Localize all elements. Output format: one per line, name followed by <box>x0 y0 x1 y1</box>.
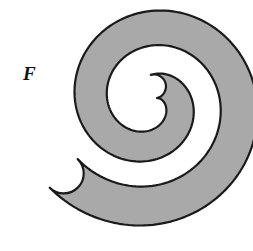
spiral-figure-svg <box>0 0 253 251</box>
figure-canvas: F <box>0 0 253 251</box>
spiral-outer-boundary <box>50 11 253 226</box>
region-label-F: F <box>23 64 36 83</box>
